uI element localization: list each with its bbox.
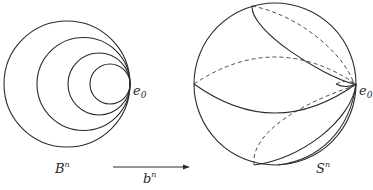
lower-circle-front bbox=[254, 84, 356, 165]
ball-diagram: e0 Bn bbox=[4, 21, 147, 176]
sphere-outline bbox=[194, 3, 356, 165]
equator-front bbox=[194, 84, 356, 113]
circle-4 bbox=[90, 64, 130, 104]
outer-circle bbox=[4, 21, 130, 147]
upper-circle-back bbox=[252, 6, 354, 84]
circle-2 bbox=[37, 38, 130, 131]
e0-label-left: e0 bbox=[133, 83, 147, 100]
diagram-canvas: e0 Bn bn e0 Sn bbox=[0, 0, 373, 190]
map-arrow: bn bbox=[113, 165, 190, 187]
lower-circle-back bbox=[254, 86, 354, 165]
arrow-head-icon bbox=[183, 165, 190, 170]
sphere-label: Sn bbox=[316, 160, 330, 176]
upper-circle-front bbox=[252, 6, 354, 84]
map-label: bn bbox=[143, 170, 156, 186]
circle-3 bbox=[68, 53, 130, 115]
e0-label-right: e0 bbox=[359, 83, 373, 100]
sphere-diagram: e0 Sn bbox=[194, 3, 373, 176]
ball-label: Bn bbox=[54, 160, 70, 176]
equator-back bbox=[194, 57, 356, 84]
